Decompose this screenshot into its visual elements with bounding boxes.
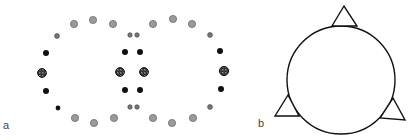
triangle-top	[332, 6, 357, 26]
dot-gray-dark	[128, 105, 132, 109]
triangle-markers	[275, 6, 405, 120]
dot-gray	[149, 114, 156, 121]
dot-gray	[110, 114, 117, 121]
figure-canvas	[0, 0, 420, 140]
dot-gray-dark	[135, 105, 139, 109]
dot-black	[122, 49, 128, 55]
dot-black	[137, 49, 143, 55]
dot-black	[218, 86, 224, 92]
dot-black	[56, 106, 61, 111]
ring-circle	[287, 26, 395, 134]
dot-gray	[189, 114, 196, 121]
dot-black	[217, 48, 223, 54]
dot-gray-dark	[208, 33, 213, 38]
dot-gray-dark	[208, 105, 213, 110]
triangle-left	[275, 95, 299, 116]
dot-black	[137, 87, 143, 93]
dot-black	[43, 88, 49, 94]
dot-mottled	[38, 69, 47, 78]
dot-gray	[168, 119, 175, 126]
dot-mottled	[219, 66, 228, 75]
dot-gray	[109, 20, 116, 27]
triangle-right	[380, 98, 405, 120]
dot-gray	[89, 16, 96, 23]
dot-gray	[90, 119, 97, 126]
dot-gray-dark	[128, 33, 132, 37]
dot-mottled	[116, 68, 125, 77]
dot-black	[122, 87, 128, 93]
dot-gray	[71, 114, 78, 121]
panel-a-dot-pattern	[38, 15, 229, 126]
panel-label-b: b	[258, 118, 264, 129]
panel-label-a: a	[3, 120, 9, 131]
dot-gray-dark	[55, 34, 60, 39]
panel-b-circle-with-triangles	[275, 6, 405, 134]
dot-gray	[169, 15, 176, 22]
dot-gray	[188, 20, 195, 27]
dot-gray	[149, 20, 156, 27]
dot-mottled	[140, 68, 149, 77]
dot-black	[43, 50, 49, 56]
dot-gray	[70, 20, 77, 27]
dot-gray-dark	[135, 33, 139, 37]
